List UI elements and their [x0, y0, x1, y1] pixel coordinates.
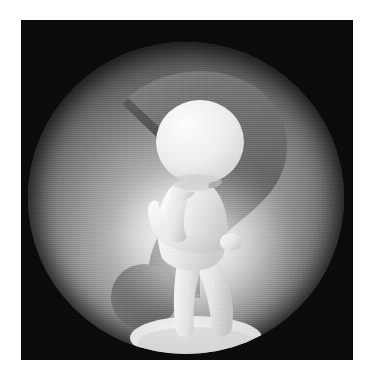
- figure-neck-shadow: [170, 174, 222, 190]
- figure-head: [156, 100, 244, 184]
- thinking-figure-graphic: [28, 42, 344, 354]
- figure-support-hand: [220, 233, 242, 251]
- figure-base: [130, 316, 262, 354]
- glowing-sphere: [28, 42, 344, 354]
- image-canvas: A white 3D figure in a thinking pose sta…: [0, 0, 373, 380]
- photo-plate: [21, 20, 353, 360]
